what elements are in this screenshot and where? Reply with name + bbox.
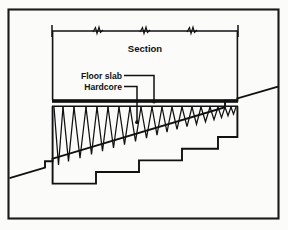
floor-slab-leader-dot	[152, 100, 156, 104]
hardcore-label: Hardcore	[84, 82, 122, 92]
floor-slab-band	[52, 99, 238, 103]
floor-slab-label: Floor slab	[81, 71, 122, 81]
section-title: Section	[128, 43, 163, 54]
hardcore-leader-dot	[135, 120, 139, 124]
section-drawing: Section Floor slab Hardcore	[0, 0, 288, 230]
figure-container: Section Floor slab Hardcore	[0, 0, 288, 230]
